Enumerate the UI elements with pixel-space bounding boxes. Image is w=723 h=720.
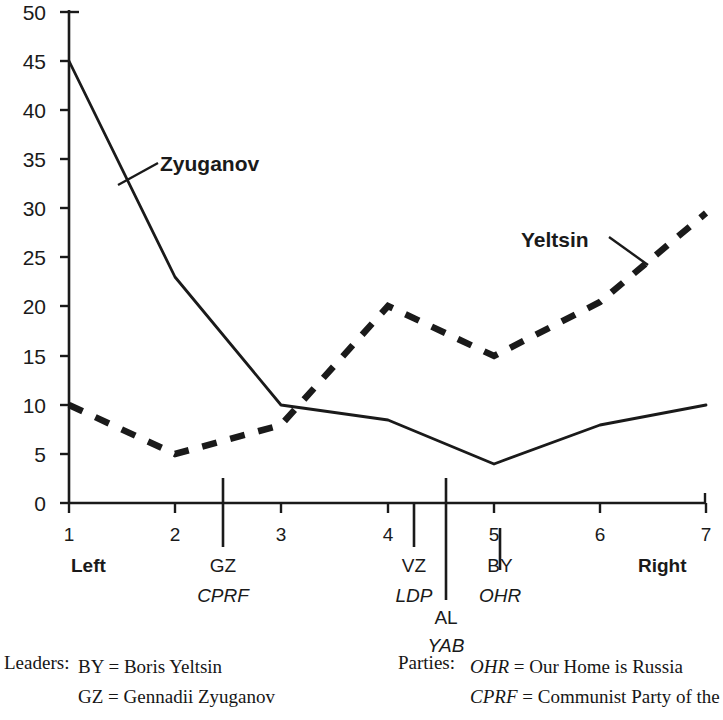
annotation-yeltsin: Yeltsin: [521, 229, 589, 250]
marker-ticks: [223, 478, 500, 600]
y-tick-label-30: 30: [12, 198, 46, 219]
legend-row: OHR = Our Home is Russia: [470, 652, 720, 682]
y-tick-label-15: 15: [12, 346, 46, 367]
series-line-zyuganov: [69, 61, 706, 464]
x-tick-label-2: 2: [160, 525, 190, 544]
y-axis-ticks: [60, 12, 69, 503]
marker-party-ldp: LDP: [386, 586, 442, 605]
x-tick-label-1: 1: [54, 525, 84, 544]
y-tick-label-20: 20: [12, 296, 46, 317]
legend-full-cprf: Communist Party of the: [538, 686, 720, 707]
axis-anchor-left: Left: [71, 556, 106, 575]
marker-leader-al: AL: [423, 608, 469, 627]
legend-block: Leaders: BY = Boris Yeltsin GZ = Gennadi…: [0, 652, 723, 720]
x-tick-label-3: 3: [266, 525, 296, 544]
x-tick-label-7: 7: [691, 525, 721, 544]
legend-rows-parties: OHR = Our Home is Russia CPRF = Communis…: [470, 652, 720, 712]
y-tick-label-10: 10: [12, 395, 46, 416]
y-tick-label-25: 25: [12, 247, 46, 268]
legend-row: CPRF = Communist Party of the: [470, 682, 720, 712]
marker-leader-vz: VZ: [391, 556, 437, 575]
legend-abbr-by: BY: [78, 656, 104, 677]
legend-abbr-gz: GZ: [78, 686, 103, 707]
legend-row: GZ = Gennadii Zyuganov: [78, 682, 275, 712]
legend-sep: =: [103, 686, 123, 707]
x-tick-label-6: 6: [585, 525, 615, 544]
legend-full-gz: Gennadii Zyuganov: [124, 686, 275, 707]
series-line-yeltsin: [69, 213, 706, 454]
plot-canvas: [0, 0, 723, 720]
x-axis-ticks: [69, 503, 706, 513]
legend-rows-leaders: BY = Boris Yeltsin GZ = Gennadii Zyugano…: [78, 652, 275, 712]
legend-full-ohr: Our Home is Russia: [529, 656, 683, 677]
marker-party-ohr: OHR: [472, 586, 528, 605]
y-tick-label-40: 40: [12, 100, 46, 121]
y-tick-label-35: 35: [12, 149, 46, 170]
axis-anchor-right: Right: [638, 556, 687, 575]
chart-figure: 50 45 40 35 30 25 20 15 10 5 0 1 2 3 4 5…: [0, 0, 723, 720]
legend-sep: =: [104, 656, 124, 677]
marker-party-cprf: CPRF: [195, 586, 251, 605]
y-tick-label-0: 0: [12, 493, 46, 514]
x-tick-label-5: 5: [479, 525, 509, 544]
annotation-zyuganov: Zyuganov: [160, 153, 259, 174]
legend-sep: =: [509, 656, 529, 677]
legend-full-by: Boris Yeltsin: [124, 656, 222, 677]
marker-leader-gz: GZ: [200, 556, 246, 575]
y-tick-label-5: 5: [12, 444, 46, 465]
x-tick-label-4: 4: [373, 525, 403, 544]
legend-heading-parties: Parties:: [398, 652, 455, 674]
y-tick-label-50: 50: [12, 2, 46, 23]
legend-heading-leaders: Leaders:: [4, 652, 69, 674]
legend-abbr-ohr: OHR: [470, 656, 509, 677]
legend-abbr-cprf: CPRF: [470, 686, 518, 707]
marker-leader-by: BY: [477, 556, 523, 575]
y-tick-label-45: 45: [12, 51, 46, 72]
legend-sep: =: [518, 686, 538, 707]
yeltsin-leader-line: [609, 237, 648, 265]
legend-row: BY = Boris Yeltsin: [78, 652, 275, 682]
